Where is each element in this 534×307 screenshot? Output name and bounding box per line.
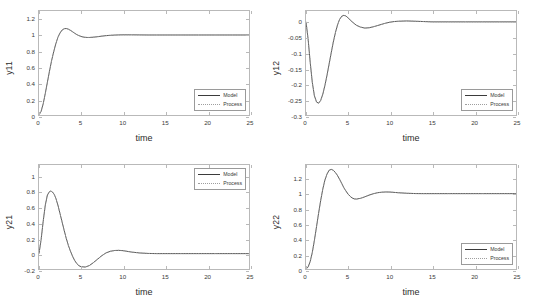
x-tick-label: 20 <box>204 119 211 126</box>
y-tick-label: 0.4 <box>268 236 302 243</box>
y-tick-label: -0.15 <box>268 65 302 72</box>
plot-box-y21: Model Process <box>38 164 250 270</box>
y-tick-mark <box>39 117 42 118</box>
y-tick-label: 1.2 <box>1 15 35 22</box>
y-tick-mark <box>306 54 309 55</box>
y-tick-label: -0.25 <box>268 97 302 104</box>
y-tick-label: 0 <box>268 267 302 274</box>
x-tick-mark <box>251 266 252 269</box>
y-tick-label: 0 <box>1 251 35 258</box>
legend-label-model: Model <box>223 92 237 99</box>
x-tick-mark <box>518 165 519 168</box>
legend-row-process: Process <box>198 101 242 108</box>
legend-key-model-icon <box>465 249 487 250</box>
y-tick-label: -0.1 <box>268 49 302 56</box>
x-tick-mark <box>306 11 307 14</box>
x-tick-mark <box>124 165 125 168</box>
x-tick-mark <box>306 112 307 115</box>
x-tick-labels-y22: 0510152025 <box>305 273 517 285</box>
y-tick-mark <box>39 208 42 209</box>
x-tick-mark <box>391 165 392 168</box>
x-tick-label: 15 <box>429 119 436 126</box>
x-tick-mark <box>476 11 477 14</box>
y-tick-mark <box>306 256 309 257</box>
y-tick-label: 0.4 <box>1 219 35 226</box>
legend-key-process-icon <box>465 104 487 105</box>
x-tick-mark <box>81 266 82 269</box>
subplot-y12: y12 0-0.05-0.1-0.15-0.2-0.25-0.3 Model P… <box>267 0 534 153</box>
x-tick-mark <box>348 165 349 168</box>
x-tick-mark <box>251 112 252 115</box>
x-tick-mark <box>348 112 349 115</box>
x-tick-mark <box>209 266 210 269</box>
y-tick-labels-y22: 00.20.40.60.811.2 <box>267 164 302 270</box>
legend-y21[interactable]: Model Process <box>194 168 246 190</box>
x-tick-mark <box>81 165 82 168</box>
y-tick-mark <box>513 210 516 211</box>
x-tick-label: 25 <box>247 119 254 126</box>
x-tick-mark <box>391 112 392 115</box>
legend-label-model: Model <box>490 92 504 99</box>
x-tick-mark <box>166 112 167 115</box>
y-tick-mark <box>246 192 249 193</box>
x-axis-label-y12: time <box>305 133 517 143</box>
y-tick-mark <box>246 117 249 118</box>
x-tick-label: 15 <box>162 119 169 126</box>
legend-y12[interactable]: Model Process <box>461 89 513 111</box>
legend-label-process: Process <box>223 180 242 187</box>
x-tick-mark <box>306 266 307 269</box>
x-tick-mark <box>306 165 307 168</box>
y-tick-mark <box>513 54 516 55</box>
y-tick-mark <box>306 179 309 180</box>
legend-key-process-icon <box>198 104 220 105</box>
x-axis-label-y21: time <box>38 287 250 297</box>
y-tick-mark <box>306 240 309 241</box>
y-tick-mark <box>246 271 249 272</box>
legend-label-model: Model <box>490 246 504 253</box>
y-tick-mark <box>246 255 249 256</box>
x-tick-mark <box>348 266 349 269</box>
legend-y11[interactable]: Model Process <box>194 89 246 111</box>
y-tick-label: -0.05 <box>268 33 302 40</box>
y-tick-mark <box>246 240 249 241</box>
x-tick-mark <box>433 266 434 269</box>
y-tick-mark <box>513 225 516 226</box>
x-tick-mark <box>124 112 125 115</box>
x-tick-mark <box>518 11 519 14</box>
legend-label-process: Process <box>490 255 509 262</box>
x-tick-label: 10 <box>386 273 393 280</box>
y-tick-mark <box>39 68 42 69</box>
y-tick-mark <box>39 177 42 178</box>
y-tick-labels-y11: 00.20.40.60.811.2 <box>0 10 35 116</box>
x-axis-label-y11: time <box>38 133 250 143</box>
y-tick-mark <box>246 101 249 102</box>
legend-label-process: Process <box>223 101 242 108</box>
subplot-y11: y11 00.20.40.60.811.2 Model Process 0510… <box>0 0 267 153</box>
legend-row-process: Process <box>465 255 509 262</box>
x-tick-mark <box>166 11 167 14</box>
x-tick-mark <box>166 266 167 269</box>
x-tick-label: 0 <box>36 119 39 126</box>
x-tick-mark <box>39 112 40 115</box>
y-tick-mark <box>513 38 516 39</box>
y-tick-mark <box>39 84 42 85</box>
x-tick-label: 15 <box>162 273 169 280</box>
x-tick-label: 25 <box>247 273 254 280</box>
y-tick-label: 0 <box>1 113 35 120</box>
y-tick-mark <box>513 179 516 180</box>
x-tick-mark <box>391 266 392 269</box>
x-tick-mark <box>209 112 210 115</box>
y-tick-mark <box>39 255 42 256</box>
legend-y22[interactable]: Model Process <box>461 243 513 265</box>
x-tick-mark <box>476 165 477 168</box>
y-tick-mark <box>306 271 309 272</box>
y-tick-mark <box>513 70 516 71</box>
x-tick-mark <box>124 266 125 269</box>
y-tick-label: 0.2 <box>1 96 35 103</box>
y-tick-mark <box>39 192 42 193</box>
x-tick-label: 5 <box>346 273 349 280</box>
x-tick-label: 10 <box>119 273 126 280</box>
y-tick-mark <box>39 240 42 241</box>
x-tick-label: 25 <box>514 273 521 280</box>
x-tick-mark <box>518 112 519 115</box>
